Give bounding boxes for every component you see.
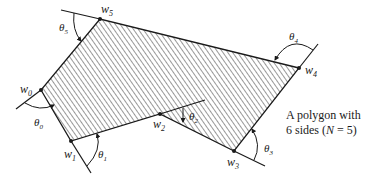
label-w1: w1 xyxy=(64,147,76,163)
label-w0: w0 xyxy=(20,82,32,98)
caption-line-2: 6 sides (N = 5) xyxy=(286,123,361,138)
label-theta5: θ5 xyxy=(59,21,68,36)
label-theta4: θ4 xyxy=(289,30,298,45)
label-w3: w3 xyxy=(227,155,239,171)
label-w5: w5 xyxy=(101,2,113,18)
label-w2: w2 xyxy=(153,117,165,133)
label-theta1: θ1 xyxy=(98,148,107,163)
label-w4: w4 xyxy=(305,63,317,79)
label-theta3: θ3 xyxy=(264,142,273,157)
caption-line-1: A polygon with xyxy=(286,108,361,123)
figure-caption: A polygon with 6 sides (N = 5) xyxy=(286,108,361,138)
label-theta0: θ0 xyxy=(34,116,43,131)
polygon-diagram: w0 w1 w2 w3 w4 w5 θ0 θ1 θ2 θ3 θ4 θ5 xyxy=(0,0,369,183)
